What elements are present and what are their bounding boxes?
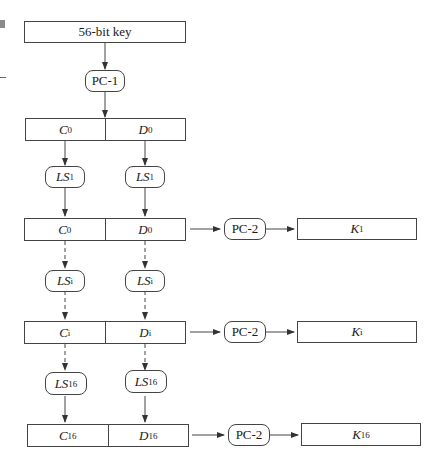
pc2-box-i: PC-2 [224,321,266,343]
d-half-i: Di [106,322,186,343]
input-key-box: 56-bit key [24,21,186,43]
shift-d-i: LSi [125,270,165,292]
shift-c-16: LS16 [45,372,87,395]
d-half-0: D0 [106,119,185,140]
input-key-label: 56-bit key [78,24,131,40]
shift-d-16: LS16 [125,370,167,393]
subkey-box-16: K16 [301,423,421,446]
subkey-box-1: K1 [297,218,417,240]
cd-register-16: C16 D16 [27,424,189,447]
shift-d-1: LS1 [125,166,165,188]
pc2-box-16: PC-2 [228,424,270,446]
c-half-0: C0 [26,119,106,140]
shift-c-i: LSi [45,270,85,292]
cd-register-i: Ci Di [24,321,186,344]
d-half-16: D16 [109,425,189,446]
cd-register-0: C0 D0 [25,118,186,141]
d-half-1: D0 [106,219,186,240]
cd-register-1: C0 D0 [24,218,186,241]
shift-c-1: LS1 [45,166,85,188]
c-half-16: C16 [28,425,109,446]
pc1-box: PC-1 [85,70,125,92]
c-half-1: C0 [25,219,106,240]
c-half-i: Ci [25,322,106,343]
pc2-box-1: PC-2 [224,218,266,240]
pc1-label: PC-1 [92,73,119,89]
subkey-box-i: Ki [297,321,417,343]
